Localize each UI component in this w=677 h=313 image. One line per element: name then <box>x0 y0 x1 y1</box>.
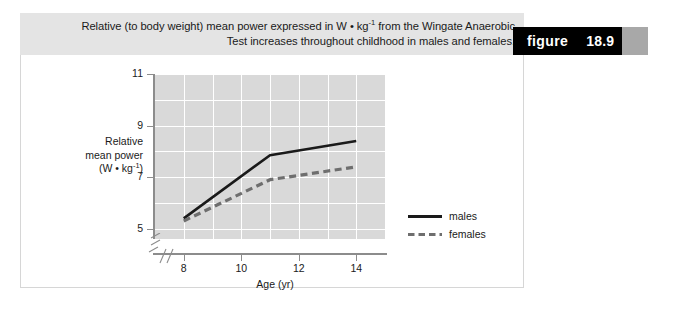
figure-badge-number: 18.9 <box>586 33 614 49</box>
y-axis-tick-label: 9 <box>113 119 143 131</box>
data-series-layer <box>155 74 385 239</box>
figure-badge-gray-tail <box>622 27 648 55</box>
y-axis-tick <box>147 126 154 127</box>
figure-badge: figure 18.9 <box>513 27 648 55</box>
figure-badge-black-bar: figure 18.9 <box>513 27 622 55</box>
legend-label-males: males <box>449 210 477 222</box>
y-axis-tick-label: 11 <box>113 67 143 79</box>
figure-caption: Relative (to body weight) mean power exp… <box>51 19 524 49</box>
data-line-females <box>184 167 357 221</box>
legend-swatch-males <box>408 211 442 222</box>
x-axis-title: Age (yr) <box>215 278 335 290</box>
y-axis-tick <box>147 177 154 178</box>
x-axis-tick-label: 10 <box>226 262 256 274</box>
y-axis-tick <box>147 229 154 230</box>
y-axis-title-line3-pre: (W • kg <box>99 162 133 174</box>
caption-band: Relative (to body weight) mean power exp… <box>20 13 524 55</box>
x-axis-tick-label: 12 <box>284 262 314 274</box>
chart: 57911 8101214 Relative mean power (W • k… <box>20 55 524 288</box>
y-axis-tick <box>147 74 154 75</box>
legend-label-females: females <box>449 228 486 240</box>
figure-badge-word: figure <box>527 33 568 49</box>
y-axis-title-line2: mean power <box>85 149 143 161</box>
y-axis-title: Relative mean power (W • kg-1) <box>58 135 143 176</box>
y-axis-tick-label: 5 <box>113 222 143 234</box>
y-axis-title-line1: Relative <box>105 135 143 147</box>
x-axis-tick <box>356 255 357 261</box>
x-axis-tick-label: 14 <box>341 262 371 274</box>
caption-line2: Test increases throughout childhood in m… <box>227 35 515 47</box>
legend-swatch-females <box>408 229 442 240</box>
legend-item-females: females <box>408 225 518 243</box>
figure-root: Relative (to body weight) mean power exp… <box>0 0 677 313</box>
chart-legend: malesfemales <box>408 207 518 243</box>
caption-line1-post: from the Wingate Anaerobic <box>375 20 515 32</box>
y-axis-title-line3-post: ) <box>140 162 144 174</box>
x-axis-tick <box>241 255 242 261</box>
caption-line1-pre: Relative (to body weight) mean power exp… <box>81 20 368 32</box>
legend-item-males: males <box>408 207 518 225</box>
x-axis-tick <box>299 255 300 261</box>
y-axis-title-superscript: -1 <box>133 161 140 170</box>
